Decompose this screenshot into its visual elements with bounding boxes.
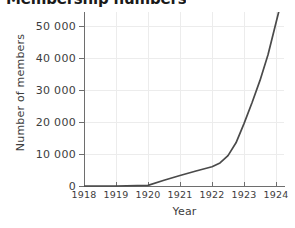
gridline-vertical — [148, 12, 149, 186]
x-tick-mark — [212, 182, 213, 187]
y-tick-mark — [79, 26, 85, 27]
gridline-vertical — [276, 12, 277, 186]
gridline-horizontal — [84, 90, 284, 91]
chart-title: Membership numbers — [6, 0, 186, 8]
x-tick-label: 1922 — [196, 190, 228, 200]
x-tick-label: 1923 — [228, 190, 260, 200]
y-tick-mark — [79, 154, 85, 155]
x-tick-label: 1921 — [164, 190, 196, 200]
plot-area — [84, 12, 284, 186]
x-tick-mark — [148, 182, 149, 187]
gridline-vertical — [244, 12, 245, 186]
x-tick-label: 1920 — [132, 190, 164, 200]
x-tick-label: 1918 — [68, 190, 100, 200]
y-tick-label: 20 000 — [36, 117, 76, 128]
y-tick-mark — [79, 90, 85, 91]
x-tick-mark — [84, 182, 85, 187]
chart-figure: Membership numbers 0 10 000 20 000 30 00… — [0, 0, 295, 228]
gridline-vertical — [116, 12, 117, 186]
y-tick-label: 50 000 — [36, 21, 76, 32]
x-tick-mark — [180, 182, 181, 187]
gridline-vertical — [212, 12, 213, 186]
y-tick-label: 30 000 — [36, 85, 76, 96]
x-axis-line — [84, 186, 285, 187]
y-tick-mark — [79, 58, 85, 59]
gridline-horizontal — [84, 26, 284, 27]
x-tick-label: 1919 — [100, 190, 132, 200]
y-tick-mark — [79, 122, 85, 123]
x-axis-title: Year — [84, 205, 285, 218]
x-tick-mark — [116, 182, 117, 187]
y-axis-title: Number of members — [14, 18, 27, 168]
y-tick-label: 10 000 — [36, 149, 76, 160]
gridline-horizontal — [84, 154, 284, 155]
x-tick-mark — [276, 182, 277, 187]
y-axis-line — [84, 12, 85, 187]
x-tick-mark — [244, 182, 245, 187]
y-tick-label: 40 000 — [36, 53, 76, 64]
gridline-horizontal — [84, 122, 284, 123]
x-tick-label: 1924 — [260, 190, 292, 200]
gridline-horizontal — [84, 58, 284, 59]
gridline-vertical — [180, 12, 181, 186]
